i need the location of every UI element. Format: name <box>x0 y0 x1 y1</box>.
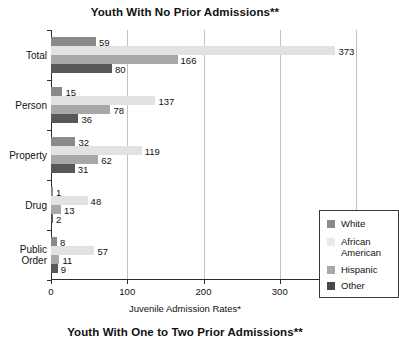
bar-value-label-drug-african-american: 48 <box>91 197 102 206</box>
legend-swatch-icon-3 <box>327 282 335 290</box>
bar-public-order-white <box>51 237 57 246</box>
bar-total-african-american <box>51 46 335 55</box>
chart-title-top: Youth With No Prior Admissions** <box>0 6 370 18</box>
bar-public-order-other <box>51 264 58 273</box>
x-axis-label: Juvenile Admission Rates* <box>0 303 370 314</box>
bar-value-label-total-african-american: 373 <box>338 47 354 56</box>
bar-drug-white <box>51 187 53 196</box>
bar-value-label-total-hispanic: 166 <box>181 56 197 65</box>
legend-item-other: Other <box>327 281 365 292</box>
legend-label: African American <box>341 237 381 258</box>
y-tick-person <box>47 80 52 81</box>
bar-drug-african-american <box>51 196 88 205</box>
x-tick-label-300: 300 <box>260 286 300 297</box>
legend: WhiteAfrican AmericanHispanicOther <box>319 210 399 298</box>
bar-public-order-hispanic <box>51 255 59 264</box>
bar-value-label-person-other: 36 <box>81 115 92 124</box>
y-category-label-person: Person <box>0 100 47 111</box>
bar-property-hispanic <box>51 155 98 164</box>
legend-swatch-icon-2 <box>327 266 335 274</box>
bar-total-other <box>51 64 112 73</box>
x-tick-label-0: 0 <box>31 286 71 297</box>
bar-person-african-american <box>51 96 155 105</box>
bar-public-order-african-american <box>51 246 94 255</box>
chart-title-bottom: Youth With One to Two Prior Admissions** <box>0 326 370 338</box>
y-category-label-property: Property <box>0 150 47 161</box>
bar-value-label-public-order-other: 9 <box>61 265 66 274</box>
y-category-label-public-order: Public Order <box>0 244 47 266</box>
bar-drug-hispanic <box>51 205 61 214</box>
legend-swatch-icon-0 <box>327 220 335 228</box>
bar-value-label-drug-other: 2 <box>56 215 61 224</box>
bar-person-other <box>51 114 78 123</box>
x-tick-label-200: 200 <box>184 286 224 297</box>
x-tick-100 <box>127 279 128 284</box>
legend-label: Other <box>341 281 365 292</box>
legend-label: White <box>341 219 365 230</box>
legend-label: Hispanic <box>341 265 377 276</box>
legend-item-african-american: African American <box>327 237 381 258</box>
bar-drug-other <box>51 214 53 223</box>
y-tick-total <box>47 30 52 31</box>
bar-value-label-property-african-american: 119 <box>145 147 160 156</box>
x-tick-label-100: 100 <box>107 286 147 297</box>
y-category-label-total: Total <box>0 50 47 61</box>
bar-value-label-property-hispanic: 62 <box>101 156 112 165</box>
bar-person-hispanic <box>51 105 110 114</box>
bar-person-white <box>51 87 62 96</box>
y-category-label-drug: Drug <box>0 200 47 211</box>
gridline-300 <box>280 30 281 280</box>
bar-value-label-public-order-african-american: 57 <box>97 247 108 256</box>
y-tick-property <box>47 130 52 131</box>
plot-area: 0100200300400 TotalPersonPropertyDrugPub… <box>51 30 356 280</box>
y-tick-end <box>47 280 52 281</box>
bar-property-other <box>51 164 75 173</box>
y-tick-drug <box>47 180 52 181</box>
bar-property-african-american <box>51 146 142 155</box>
bar-value-label-total-other: 80 <box>115 65 126 74</box>
y-tick-public-order <box>47 230 52 231</box>
bar-total-white <box>51 37 96 46</box>
legend-item-white: White <box>327 219 365 230</box>
bar-value-label-person-african-american: 137 <box>158 97 174 106</box>
bar-value-label-property-other: 31 <box>78 165 89 174</box>
gridline-100 <box>127 30 128 280</box>
bar-property-white <box>51 137 75 146</box>
bar-value-label-drug-hispanic: 13 <box>64 206 75 215</box>
bar-value-label-person-hispanic: 78 <box>113 106 124 115</box>
legend-item-hispanic: Hispanic <box>327 265 377 276</box>
legend-swatch-icon-1 <box>327 238 335 246</box>
gridline-200 <box>204 30 205 280</box>
bar-total-hispanic <box>51 55 178 64</box>
x-tick-200 <box>204 279 205 284</box>
x-tick-300 <box>280 279 281 284</box>
